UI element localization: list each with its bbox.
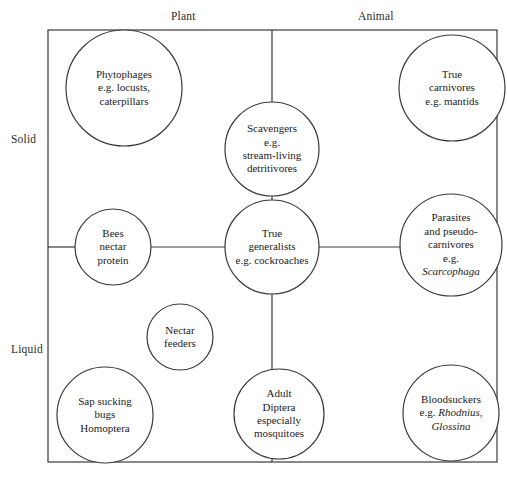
node-label-word: especially [257,414,301,426]
node-label-line: e.g. [243,136,302,149]
node-label-parasites-and-pseudo-carnivores: Parasitesand pseudo-carnivorese.g.Scarco… [419,211,483,278]
node-label-word: bugs [95,408,116,420]
node-label-word: Phytophages [96,68,152,80]
node-label-word: e.g. [425,95,441,107]
node-true-carnivores[interactable]: Truecarnivorese.g. mantids [399,35,505,141]
node-label-word: protein [97,254,128,266]
node-label-word: Parasites [431,211,470,223]
node-label-word: e.g. [264,136,280,148]
node-scavengers[interactable]: Scavengerse.g.stream-livingdetritivores [225,102,319,196]
node-label-word: locusts, [114,81,150,93]
node-parasites-and-pseudo-carnivores[interactable]: Parasitesand pseudo-carnivorese.g.Scarco… [400,194,502,296]
node-label-scavengers: Scavengerse.g.stream-livingdetritivores [240,122,305,176]
node-label-bees-nectar-protein: Beesnectarprotein [94,227,131,267]
node-label-line: e.g. cockroaches [236,254,309,267]
node-label-line: Diptera [254,401,304,414]
node-label-line: stream-living [243,149,302,162]
node-label-line: True [236,227,309,240]
node-label-line: Bees [97,227,128,240]
node-label-word: detritivores [247,162,297,174]
node-label-word: nectar [100,240,127,252]
node-label-line: feeders [164,337,196,350]
node-label-line: e.g. mantids [425,95,478,108]
node-label-word: True [262,227,282,239]
node-label-line: Homoptera [78,422,131,435]
node-label-line: True [425,68,478,81]
node-label-word: e.g. [420,406,436,418]
node-label-word: sucking [95,395,132,407]
node-label-word: generalists [248,240,295,252]
node-label-line: caterpillars [96,95,152,108]
node-label-true-carnivores: Truecarnivorese.g. mantids [422,68,481,108]
node-label-word: Sap [78,395,95,407]
axis-label-top-animal: Animal [358,10,394,22]
node-label-line: e.g. Rhodnius, [420,406,483,419]
node-label-word: Bloodsuckers [421,393,481,405]
node-bees-nectar-protein[interactable]: Beesnectarprotein [75,209,151,285]
node-label-word: e.g. [236,254,252,266]
node-label-line: Sap sucking [78,395,131,408]
node-label-line: carnivores [425,81,478,94]
node-label-line: Nectar [164,324,196,337]
node-label-word: caterpillars [100,95,149,107]
node-label-line: generalists [236,240,309,253]
node-label-line: especially [254,414,304,427]
node-label-word: Bees [102,227,123,239]
node-label-word: stream-living [243,149,302,161]
node-label-word: Nectar [165,324,194,336]
node-label-line: Adult [254,387,304,400]
node-true-generalists[interactable]: Truegeneralistse.g. cockroaches [225,200,319,294]
node-label-line: Bloodsuckers [420,393,483,406]
node-label-line: mosquitoes [254,427,304,440]
node-label-line: e.g. locusts, [96,81,152,94]
node-label-bloodsuckers: Bloodsuckerse.g. Rhodnius,Glossina [417,393,486,433]
node-label-line: carnivores [422,238,480,251]
node-label-line: Glossina [420,420,483,433]
node-sap-sucking-bugs[interactable]: Sap suckingbugsHomoptera [57,367,153,463]
node-label-word: mantids [441,95,479,107]
node-label-word: and [424,225,440,237]
node-label-word: Scarcophaga [422,265,480,277]
node-adult-diptera[interactable]: AdultDipteraespeciallymosquitoes [234,369,324,459]
node-label-phytophages: Phytophagese.g. locusts,caterpillars [93,68,155,108]
node-label-word: cockroaches [251,254,308,266]
axis-label-left-solid: Solid [11,133,36,145]
node-nectar-feeders[interactable]: Nectarfeeders [147,304,213,370]
node-label-line: Phytophages [96,68,152,81]
node-label-word: e.g. [98,81,114,93]
node-label-word: Rhodnius, [435,406,482,418]
node-label-word: pseudo- [440,225,478,237]
node-label-true-generalists: Truegeneralistse.g. cockroaches [233,227,312,267]
node-label-word: carnivores [428,238,474,250]
node-label-line: Parasites [422,211,480,224]
node-label-word: Glossina [431,420,470,432]
node-label-sap-sucking-bugs: Sap suckingbugsHomoptera [75,395,134,435]
node-label-word: mosquitoes [254,427,304,439]
node-label-word: Scavengers [247,122,297,134]
node-label-word: Adult [266,387,291,399]
node-label-line: bugs [78,408,131,421]
axis-label-top-plant: Plant [171,10,196,22]
node-label-word: feeders [164,337,196,349]
node-phytophages[interactable]: Phytophagese.g. locusts,caterpillars [66,30,182,146]
node-label-line: Scavengers [243,122,302,135]
node-label-line: e.g. [422,252,480,265]
node-label-line: nectar [97,240,128,253]
node-label-adult-diptera: AdultDipteraespeciallymosquitoes [251,387,307,441]
node-label-line: protein [97,254,128,267]
node-label-word: Diptera [263,401,296,413]
node-label-word: Homoptera [80,422,129,434]
node-label-word: e.g. [443,252,459,264]
node-label-word: True [442,68,462,80]
node-label-word: carnivores [429,81,475,93]
node-bloodsuckers[interactable]: Bloodsuckerse.g. Rhodnius,Glossina [403,365,499,461]
node-label-nectar-feeders: Nectarfeeders [161,324,199,351]
node-label-line: detritivores [243,162,302,175]
feeding-habit-diagram: Plant Animal Solid Liquid Phytophagese.g… [0,0,507,477]
node-label-line: and pseudo- [422,225,480,238]
axis-label-left-liquid: Liquid [11,343,43,355]
node-label-line: Scarcophaga [422,265,480,278]
